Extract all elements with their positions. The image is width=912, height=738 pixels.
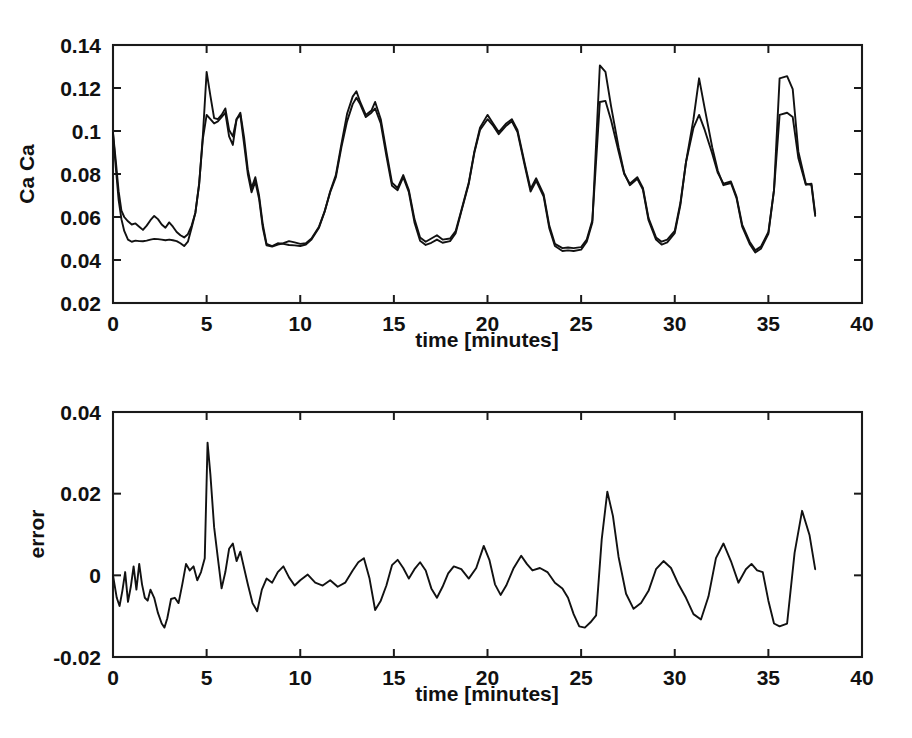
lower-panel-plot: 0510152025303540 -0.0200.020.04 time [mi… [0,372,912,738]
lower-data-series [113,443,815,628]
upper-y-axis-title: Ca Ca [15,144,38,204]
series-path-measured [113,72,815,250]
lower-panel: 0510152025303540 -0.0200.020.04 time [mi… [0,372,912,738]
x-tick-label: 5 [201,312,213,335]
lower-y-axis-title: error [25,509,48,558]
lower-tick-marks [113,412,862,657]
series-path-model [113,65,815,252]
y-tick-label: 0 [89,564,101,587]
y-tick-label: 0.04 [60,401,101,424]
x-tick-label: 10 [289,666,312,689]
y-tick-label: 0.06 [60,206,101,229]
x-tick-label: 40 [850,312,873,335]
y-tick-label: 0.08 [60,163,101,186]
x-tick-label: 25 [569,312,593,335]
x-tick-label: 35 [757,666,781,689]
figure-container: 0510152025303540 0.020.040.060.080.10.12… [0,0,912,738]
y-tick-label: 0.02 [60,482,101,505]
x-tick-label: 25 [569,666,593,689]
x-tick-label: 35 [757,312,781,335]
upper-axes-frame [113,45,862,303]
upper-data-series [113,65,815,252]
x-tick-label: 30 [663,666,686,689]
x-tick-label: 30 [663,312,686,335]
lower-x-axis-title: time [minutes] [415,682,559,705]
upper-tick-marks [113,45,862,303]
y-tick-label: 0.02 [60,292,101,315]
lower-y-tick-labels: -0.0200.020.04 [53,401,101,669]
upper-panel: 0510152025303540 0.020.040.060.080.10.12… [0,0,912,372]
x-tick-label: 10 [289,312,312,335]
upper-y-tick-labels: 0.020.040.060.080.10.120.14 [60,34,101,315]
x-tick-label: 15 [382,312,406,335]
upper-x-axis-title: time [minutes] [415,328,559,351]
y-tick-label: 0.1 [72,120,102,143]
y-tick-label: 0.04 [60,249,101,272]
x-tick-label: 15 [382,666,406,689]
x-tick-label: 0 [107,666,119,689]
y-tick-label: 0.14 [60,34,101,57]
series-path-error [113,443,815,628]
x-tick-label: 0 [107,312,119,335]
y-tick-label: -0.02 [53,646,101,669]
lower-axes-frame [113,412,862,657]
x-tick-label: 40 [850,666,873,689]
upper-panel-plot: 0510152025303540 0.020.040.060.080.10.12… [0,0,912,372]
x-tick-label: 5 [201,666,213,689]
y-tick-label: 0.12 [60,77,101,100]
